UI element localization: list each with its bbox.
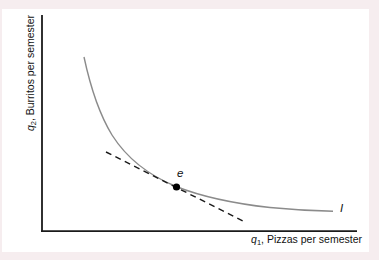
indifference-curve (84, 57, 333, 211)
y-axis-label: q2, Burritos per semester (23, 13, 37, 133)
x-axis-label: q1, Pizzas per semester (182, 233, 362, 247)
y-axis-variable: q (24, 125, 36, 131)
indifference-curve-label: I (340, 202, 343, 214)
figure-stage: q2, Burritos per semester q1, Pizzas per… (0, 0, 379, 260)
point-e-label: e (177, 167, 183, 179)
plot-canvas (0, 0, 379, 260)
x-axis-caption: , Pizzas per semester (261, 233, 362, 245)
y-axis-caption: , Burritos per semester (24, 15, 36, 121)
y-axis-subscript: 2 (29, 121, 38, 125)
point-e-marker (173, 183, 180, 190)
